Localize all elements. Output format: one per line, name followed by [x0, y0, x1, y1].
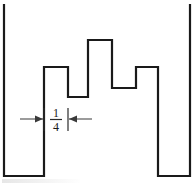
waveform-diagram: 1 4	[0, 0, 194, 184]
dimension-numerator: 1	[53, 106, 59, 120]
dimension-denominator: 4	[53, 120, 59, 134]
figure-background	[0, 0, 194, 184]
figure-container: 1 4	[0, 0, 194, 184]
